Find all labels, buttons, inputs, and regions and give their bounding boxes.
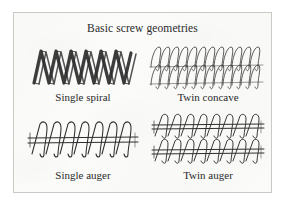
figure-title: Basic screw geometries [14,22,271,35]
figure-root: Basic screw geometries [0,0,285,206]
figure-plate: Basic screw geometries [13,12,272,193]
panel-single-auger: Single auger [20,114,146,190]
twin-auger-diagram [145,114,271,166]
panel-twin-concave: Twin concave [145,41,271,113]
caption-single-auger: Single auger [20,169,146,182]
single-spiral-diagram [20,41,146,91]
caption-twin-auger: Twin auger [145,169,271,182]
panel-twin-auger: Twin auger [145,114,271,190]
panel-single-spiral: Single spiral [20,41,146,113]
twin-concave-diagram [145,41,271,91]
caption-single-spiral: Single spiral [20,91,146,104]
caption-twin-concave: Twin concave [145,91,271,104]
single-auger-diagram [20,114,146,166]
